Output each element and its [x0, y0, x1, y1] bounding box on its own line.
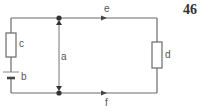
- label-a: a: [61, 51, 67, 62]
- junction-bottom: [56, 90, 61, 95]
- label-c: c: [19, 38, 24, 49]
- resistor-c-symbol: [6, 33, 16, 57]
- label-e: e: [104, 3, 110, 14]
- label-f: f: [105, 97, 108, 108]
- label-d: d: [165, 49, 171, 60]
- resistor-d-symbol: [152, 42, 162, 68]
- current-arrow-e: [101, 16, 107, 21]
- current-arrow-f: [101, 91, 107, 96]
- junction-top: [56, 15, 61, 20]
- page-number: 46: [183, 2, 197, 17]
- battery-symbol: [3, 72, 19, 78]
- label-b: b: [21, 71, 27, 82]
- circuit-diagram: c b a d e f 46: [0, 0, 202, 111]
